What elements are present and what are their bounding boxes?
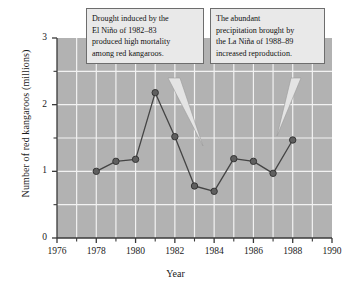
y-axis-title: Number of red kangaroos (millions)	[20, 14, 31, 234]
x-tick-label: 1984	[194, 246, 234, 256]
x-tick-label: 1976	[37, 246, 77, 256]
annotation-la-nina: The abundantprecipitation brought bythe …	[210, 8, 325, 64]
y-tick-label: 1	[23, 165, 47, 175]
annotation-line: the La Niña of 1988–89	[216, 36, 319, 48]
annotation-line: Drought induced by the	[92, 13, 198, 25]
x-tick-label: 1986	[233, 246, 273, 256]
annotation-line: increased reproduction.	[216, 48, 319, 60]
x-tick-label: 1978	[76, 246, 116, 256]
annotation-drought: Drought induced by theEl Niño of 1982–83…	[86, 8, 204, 64]
x-tick-label: 1990	[312, 246, 351, 256]
x-tick-label: 1980	[116, 246, 156, 256]
annotation-line: produced high mortality	[92, 36, 198, 48]
annotation-line: among red kangaroos.	[92, 48, 198, 60]
y-tick-label: 2	[23, 99, 47, 109]
x-axis-title: Year	[0, 268, 351, 279]
y-tick-label: 0	[23, 232, 47, 242]
annotation-line: El Niño of 1982–83	[92, 25, 198, 37]
plot-area	[57, 38, 332, 238]
data-series-layer	[57, 38, 332, 238]
x-tick-label: 1988	[273, 246, 313, 256]
y-tick-label: 3	[23, 32, 47, 42]
x-tick-label: 1982	[155, 246, 195, 256]
annotation-line: precipitation brought by	[216, 25, 319, 37]
annotation-line: The abundant	[216, 13, 319, 25]
kangaroo-population-chart: Number of red kangaroos (millions) Year …	[0, 0, 351, 287]
